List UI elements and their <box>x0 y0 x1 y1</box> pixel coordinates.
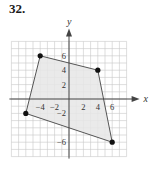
y-axis-label: y <box>66 16 72 27</box>
vertex-point <box>23 111 28 116</box>
x-tick-label: 2 <box>81 102 85 112</box>
y-tick-label: −6 <box>57 137 66 147</box>
vertex-point <box>110 140 115 145</box>
x-tick-label: 6 <box>110 102 114 112</box>
x-tick-label: 4 <box>96 102 101 112</box>
y-tick-label: −2 <box>57 108 66 118</box>
vertex-point <box>38 53 43 58</box>
y-tick-label: 2 <box>62 80 66 90</box>
x-axis-label: x <box>143 93 149 104</box>
vertex-point <box>95 68 100 73</box>
coordinate-plane: xy −4−2246642−2−6 <box>0 0 161 170</box>
x-tick-label: −4 <box>36 102 46 112</box>
y-tick-label: 6 <box>62 51 66 61</box>
